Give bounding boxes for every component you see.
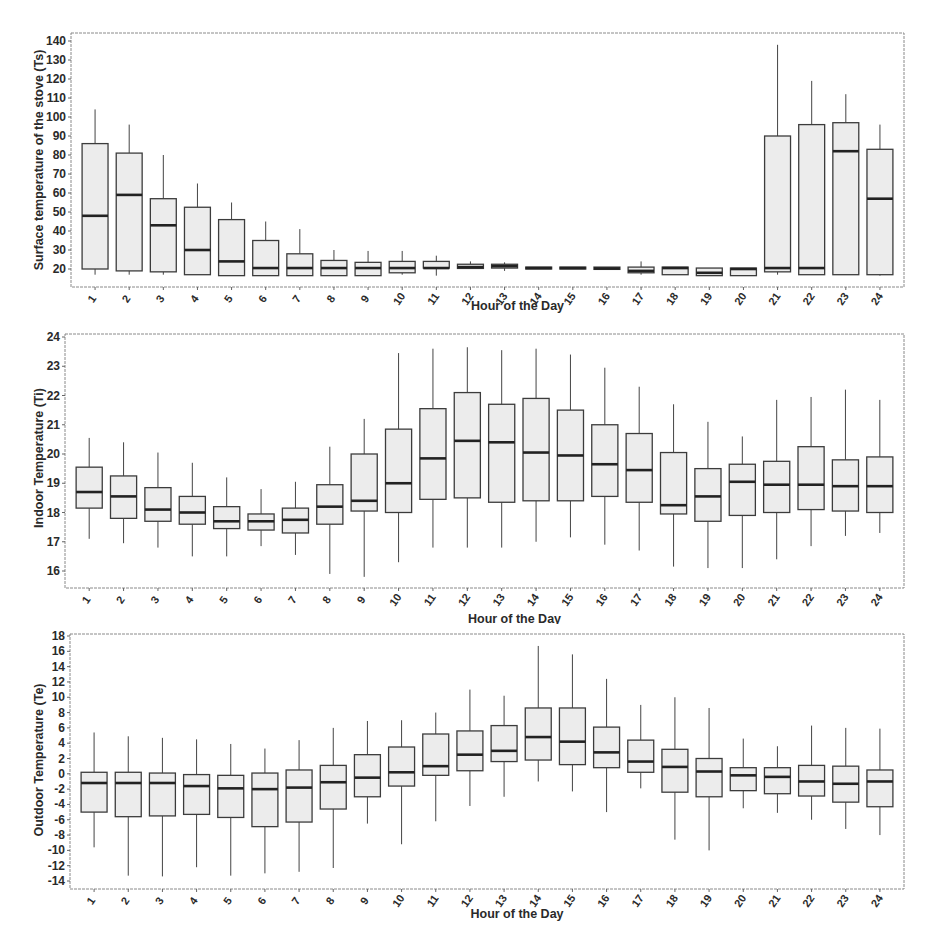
y-tick-label: 140 <box>46 34 66 48</box>
iqr-box <box>317 485 343 524</box>
y-tick-label: -12 <box>48 859 66 873</box>
x-tick-label: 1 <box>84 895 97 907</box>
y-tick-label: 50 <box>53 205 67 219</box>
x-axis-title: Hour of the Day <box>470 907 563 921</box>
iqr-box <box>523 398 549 500</box>
x-tick-label: 22 <box>800 892 817 909</box>
x-tick-label: 20 <box>732 892 749 909</box>
x-tick-label: 21 <box>765 591 782 608</box>
box-hour-20 <box>730 268 756 276</box>
x-tick-label: 2 <box>114 594 127 606</box>
iqr-box <box>764 768 790 794</box>
y-tick-label: 70 <box>53 167 67 181</box>
iqr-box <box>867 149 893 274</box>
iqr-box <box>454 393 480 498</box>
iqr-box <box>218 775 244 817</box>
iqr-box <box>82 144 108 269</box>
x-tick-label: 12 <box>456 591 473 608</box>
iqr-box <box>729 464 755 515</box>
x-tick-label: 14 <box>524 591 541 609</box>
iqr-box <box>149 773 175 816</box>
iqr-box <box>286 770 312 822</box>
y-tick-label: 19 <box>47 476 61 490</box>
box-hour-14 <box>526 267 552 269</box>
x-tick-label: 5 <box>221 895 234 907</box>
x-tick-label: 11 <box>424 892 441 908</box>
x-tick-label: 19 <box>698 290 715 307</box>
y-tick-label: 20 <box>47 447 61 461</box>
y-tick-label: 120 <box>46 72 66 86</box>
y-tick-label: 17 <box>47 535 61 549</box>
y-tick-label: 60 <box>53 186 67 200</box>
x-tick-label: 2 <box>118 895 131 907</box>
x-tick-label: 5 <box>222 293 235 305</box>
iqr-box <box>765 136 791 272</box>
y-tick-label: 12 <box>52 675 66 689</box>
x-tick-label: 22 <box>799 591 816 608</box>
x-tick-label: 18 <box>662 591 679 608</box>
x-tick-label: 5 <box>217 594 230 606</box>
y-tick-label: 6 <box>58 721 65 735</box>
y-tick-label: -4 <box>54 797 65 811</box>
y-tick-label: 0 <box>58 767 65 781</box>
y-tick-label: 90 <box>53 129 67 143</box>
y-tick-label: -10 <box>48 843 66 857</box>
x-tick-label: 20 <box>732 290 749 307</box>
iqr-box <box>145 488 171 522</box>
x-tick-label: 15 <box>559 591 576 608</box>
x-tick-label: 6 <box>256 293 269 305</box>
iqr-box <box>179 496 205 524</box>
box-hour-19 <box>696 268 722 276</box>
y-tick-label: 4 <box>58 736 65 750</box>
iqr-box <box>81 772 107 812</box>
x-tick-label: 8 <box>320 594 333 606</box>
iqr-box <box>867 770 893 807</box>
y-tick-label: 18 <box>47 506 61 520</box>
x-tick-label: 7 <box>290 293 303 305</box>
iqr-box <box>76 467 102 508</box>
x-tick-label: 16 <box>595 290 612 307</box>
x-tick-label: 6 <box>255 895 268 907</box>
x-tick-label: 21 <box>766 290 783 307</box>
y-tick-label: 100 <box>46 110 66 124</box>
iqr-box <box>420 409 446 500</box>
x-tick-label: 23 <box>834 591 851 608</box>
y-axis-title: Indoor Temperature (Ti) <box>32 388 46 528</box>
y-tick-label: 8 <box>58 706 65 720</box>
x-tick-label: 11 <box>421 591 438 607</box>
iqr-box <box>351 454 377 511</box>
iqr-box <box>798 447 824 510</box>
box-hour-18 <box>662 267 688 275</box>
iqr-box <box>214 507 240 529</box>
x-tick-label: 9 <box>354 594 367 606</box>
iqr-box <box>489 404 515 502</box>
y-tick-label: 18 <box>52 629 66 643</box>
y-tick-label: 130 <box>46 53 66 67</box>
y-tick-label: 22 <box>47 389 61 403</box>
y-tick-label: -6 <box>54 813 65 827</box>
y-axis-title: Outdoor Temperature (Te) <box>32 683 46 836</box>
box-hour-15 <box>560 267 586 269</box>
x-tick-label: 7 <box>285 594 298 606</box>
y-tick-label: 21 <box>47 418 61 432</box>
iqr-box <box>592 425 618 497</box>
x-axis-title: Hour of the Day <box>468 612 561 624</box>
y-tick-label: 16 <box>52 644 66 658</box>
x-tick-label: 16 <box>593 591 610 608</box>
iqr-box <box>354 755 380 797</box>
y-tick-label: 23 <box>47 359 61 373</box>
iqr-box <box>389 747 415 786</box>
iqr-box <box>219 220 245 276</box>
y-tick-label: 110 <box>47 91 67 105</box>
iqr-box <box>626 434 652 503</box>
y-tick-label: 40 <box>53 224 67 238</box>
iqr-box <box>150 199 176 272</box>
plot-frame <box>70 634 904 889</box>
y-tick-label: 20 <box>53 262 67 276</box>
y-axis-title: Surface temperature of the stove (Ts) <box>32 50 46 271</box>
iqr-box <box>320 765 346 809</box>
y-tick-label: -14 <box>48 874 66 888</box>
iqr-box <box>287 254 313 276</box>
iqr-box <box>525 708 551 760</box>
iqr-box <box>628 740 654 772</box>
